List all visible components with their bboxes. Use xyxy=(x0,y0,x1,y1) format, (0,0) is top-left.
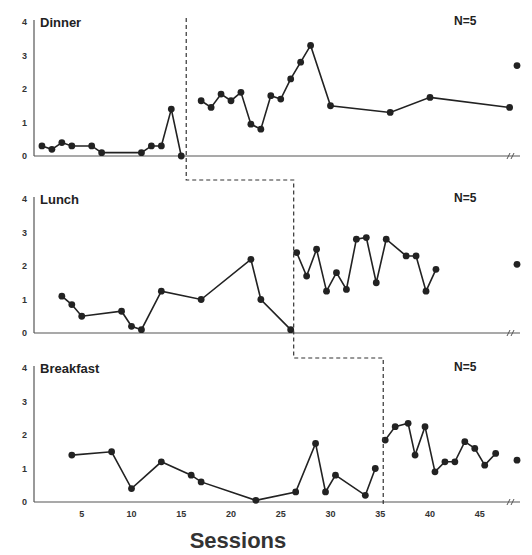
data-point xyxy=(208,104,215,111)
data-point xyxy=(148,143,155,150)
data-point xyxy=(198,97,205,104)
data-point xyxy=(68,143,75,150)
data-point xyxy=(433,266,440,273)
y-tick-label: 0 xyxy=(22,151,27,161)
panel-title: Dinner xyxy=(40,15,81,30)
data-point xyxy=(257,126,264,133)
x-tick-label: 30 xyxy=(325,509,335,519)
data-point xyxy=(228,97,235,104)
data-point xyxy=(432,468,439,475)
y-tick-label: 2 xyxy=(22,430,27,440)
y-tick-label: 3 xyxy=(22,51,27,61)
data-point xyxy=(49,146,56,153)
follow-up-point xyxy=(514,62,521,69)
data-point xyxy=(297,59,304,66)
y-tick-label: 4 xyxy=(22,194,27,204)
data-point xyxy=(363,234,370,241)
data-point xyxy=(422,423,429,430)
follow-up-point xyxy=(514,261,521,268)
intervention-line xyxy=(201,45,509,129)
x-tick-label: 25 xyxy=(276,509,286,519)
data-point xyxy=(392,423,399,430)
y-tick-label: 3 xyxy=(22,228,27,238)
data-point xyxy=(451,458,458,465)
data-point xyxy=(412,452,419,459)
y-tick-label: 1 xyxy=(22,118,27,128)
data-point xyxy=(333,269,340,276)
data-point xyxy=(252,497,259,504)
data-point xyxy=(68,452,75,459)
n-label: N=5 xyxy=(454,360,477,374)
data-point xyxy=(353,236,360,243)
data-point xyxy=(68,301,75,308)
data-point xyxy=(413,253,420,260)
data-point xyxy=(158,458,165,465)
data-point xyxy=(312,440,319,447)
data-point xyxy=(332,472,339,479)
data-point xyxy=(343,286,350,293)
x-tick-label: 40 xyxy=(425,509,435,519)
data-point xyxy=(158,143,165,150)
data-point xyxy=(168,106,175,113)
data-point xyxy=(58,139,65,146)
data-point xyxy=(506,104,513,111)
x-tick-label: 10 xyxy=(126,509,136,519)
intervention-line xyxy=(297,238,436,292)
data-point xyxy=(178,153,185,160)
y-tick-label: 2 xyxy=(22,261,27,271)
y-tick-label: 4 xyxy=(22,17,27,27)
data-point xyxy=(307,42,314,49)
data-point xyxy=(293,249,300,256)
data-point xyxy=(442,458,449,465)
data-point xyxy=(403,253,410,260)
data-point xyxy=(238,89,245,96)
data-point xyxy=(313,246,320,253)
baseline-line xyxy=(62,259,291,329)
data-point xyxy=(492,450,499,457)
panel-title: Breakfast xyxy=(40,361,100,376)
follow-up-point xyxy=(514,457,521,464)
data-point xyxy=(98,149,105,156)
data-point xyxy=(292,489,299,496)
data-point xyxy=(138,149,145,156)
y-tick-label: 3 xyxy=(22,397,27,407)
data-point xyxy=(257,296,264,303)
data-point xyxy=(118,308,125,315)
x-tick-label: 5 xyxy=(79,509,84,519)
data-point xyxy=(287,76,294,83)
data-point xyxy=(39,143,46,150)
data-point xyxy=(372,465,379,472)
data-point xyxy=(383,236,390,243)
data-point xyxy=(322,489,329,496)
data-point xyxy=(218,91,225,98)
data-point xyxy=(387,109,394,116)
intervention-line xyxy=(385,423,495,472)
data-point xyxy=(128,323,135,330)
data-point xyxy=(323,288,330,295)
n-label: N=5 xyxy=(454,191,477,205)
y-tick-label: 1 xyxy=(22,295,27,305)
data-point xyxy=(88,143,95,150)
data-point xyxy=(287,326,294,333)
data-point xyxy=(461,438,468,445)
panel-breakfast: 01234BreakfastN=5 xyxy=(22,360,520,507)
data-point xyxy=(248,256,255,263)
y-tick-label: 2 xyxy=(22,84,27,94)
data-point xyxy=(158,288,165,295)
x-tick-label: 35 xyxy=(375,509,385,519)
data-point xyxy=(423,288,430,295)
data-point xyxy=(481,462,488,469)
data-point xyxy=(267,92,274,99)
panel-title: Lunch xyxy=(40,192,79,207)
y-tick-label: 4 xyxy=(22,363,27,373)
data-point xyxy=(471,445,478,452)
x-axis-ticks: 51015202530354045 xyxy=(79,509,485,519)
data-point xyxy=(198,296,205,303)
data-point xyxy=(327,102,334,109)
data-point xyxy=(198,479,205,486)
y-tick-label: 0 xyxy=(22,328,27,338)
data-point xyxy=(128,485,135,492)
n-label: N=5 xyxy=(454,14,477,28)
data-point xyxy=(373,279,380,286)
data-point xyxy=(58,293,65,300)
